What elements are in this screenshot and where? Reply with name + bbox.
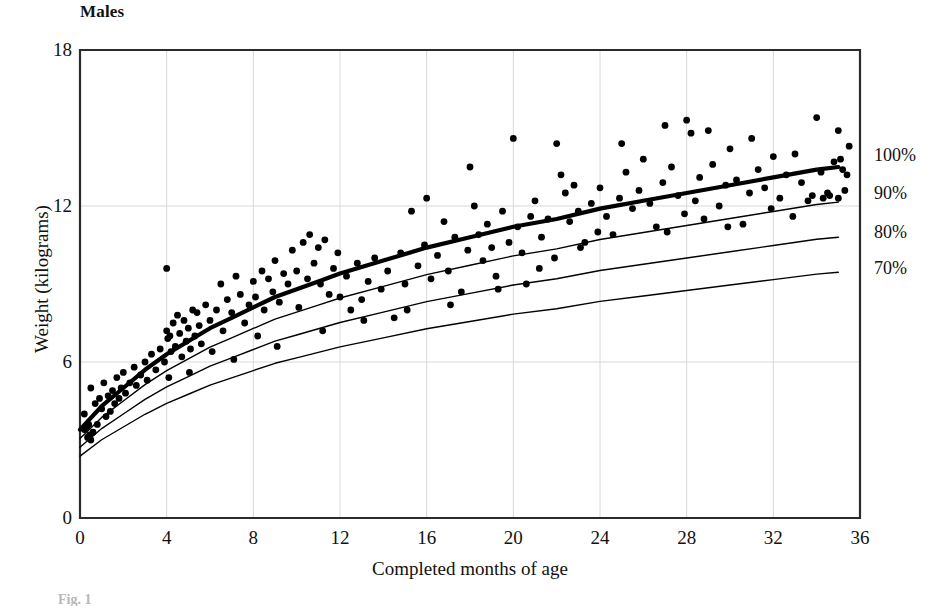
x-tick-28: 28 (662, 528, 712, 547)
chart-figure: Males Weight (kilograms) 061218 04812162… (0, 0, 936, 608)
x-tick-20: 20 (488, 528, 538, 547)
x-tick-24: 24 (575, 528, 625, 547)
curve-label-70pct: 70% (874, 259, 907, 277)
x-axis-tick-labels: 04812162024283236 (0, 524, 936, 554)
x-tick-4: 4 (142, 528, 192, 547)
scatter-points (81, 114, 853, 443)
x-axis-title: Completed months of age (280, 558, 660, 580)
x-tick-8: 8 (228, 528, 278, 547)
curve-label-80pct: 80% (874, 223, 907, 241)
curve-label-100pct: 100% (874, 146, 916, 164)
curve-label-90pct: 90% (874, 184, 907, 202)
plot-area (0, 0, 936, 608)
x-tick-12: 12 (315, 528, 365, 547)
x-tick-16: 16 (402, 528, 452, 547)
x-tick-32: 32 (748, 528, 798, 547)
x-tick-0: 0 (55, 528, 105, 547)
x-tick-36: 36 (835, 528, 885, 547)
figure-caption: Fig. 1 (58, 592, 91, 606)
